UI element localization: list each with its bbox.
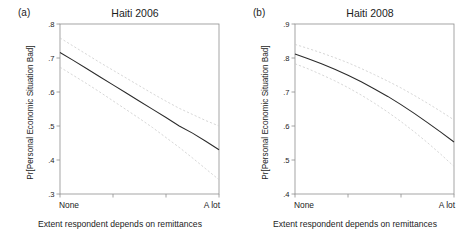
x-tick-label-left: None — [294, 200, 314, 210]
y-tick-label: .4 — [283, 190, 289, 199]
x-tick-label-right: A lot — [204, 200, 221, 210]
x-tick-label-right: A lot — [439, 200, 456, 210]
x-tick-label-left: None — [59, 200, 79, 210]
y-tick-label: .8 — [283, 54, 289, 63]
plot-frame — [295, 24, 454, 194]
y-tick-label: .7 — [283, 88, 289, 97]
y-tick-label: .9 — [283, 20, 289, 29]
panel-b-plot: .9.8.7.6.5.4NoneA lot — [235, 0, 470, 239]
y-tick-label: .7 — [48, 54, 54, 63]
y-tick-label: .3 — [48, 190, 54, 199]
y-tick-label: .5 — [48, 122, 54, 131]
upper-confidence-line — [295, 44, 454, 119]
chart-panel-b: (b) Haiti 2008 Pr[Personal Economic Situ… — [235, 0, 470, 239]
fitted-probability-line — [60, 53, 219, 150]
y-tick-label: .8 — [48, 20, 54, 29]
plot-frame — [60, 24, 219, 194]
y-tick-label: .4 — [48, 156, 54, 165]
figure-container: (a) Haiti 2006 Pr[Personal Economic Situ… — [0, 0, 470, 239]
panel-a-plot: .8.7.6.5.4.3NoneA lot — [0, 0, 235, 239]
chart-panel-a: (a) Haiti 2006 Pr[Personal Economic Situ… — [0, 0, 235, 239]
fitted-probability-line — [295, 54, 454, 142]
y-tick-label: .6 — [283, 122, 289, 131]
y-tick-label: .5 — [283, 156, 289, 165]
upper-confidence-line — [60, 38, 219, 126]
lower-confidence-line — [60, 67, 219, 180]
y-tick-label: .6 — [48, 88, 54, 97]
lower-confidence-line — [295, 64, 454, 167]
